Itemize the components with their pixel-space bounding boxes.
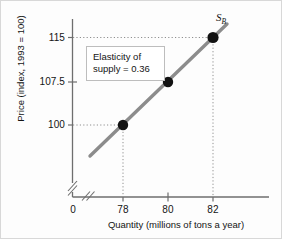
supply-elasticity-chart: 115 107.5 100 0 78 80 82 Price (index, 1… (0, 0, 282, 239)
x-tick-label-0: 0 (62, 204, 84, 215)
x-tick-label-82: 82 (202, 204, 224, 215)
x-axis-break-icon (82, 192, 95, 201)
x-tick-label-78: 78 (112, 204, 134, 215)
annotation-line-1: Elasticity of (93, 51, 159, 63)
y-axis-title: Price (index, 1993 = 100) (15, 4, 26, 134)
x-tick-label-80: 80 (157, 204, 179, 215)
elasticity-annotation-box: Elasticity of supply = 0.36 (86, 46, 165, 81)
supply-curve-label: SB (216, 11, 226, 26)
data-point-82-115 (207, 32, 218, 43)
annotation-line-2: supply = 0.36 (93, 63, 159, 75)
x-axis-title: Quantity (millions of tons a year) (71, 219, 281, 230)
supply-curve-line (90, 24, 227, 156)
y-tick-label-100: 100 (23, 119, 65, 130)
y-tick-label-115: 115 (23, 32, 65, 43)
supply-curve-label-subscript: B (222, 17, 227, 26)
y-tick-label-107-5: 107.5 (23, 76, 65, 87)
data-point-78-100 (118, 120, 128, 130)
